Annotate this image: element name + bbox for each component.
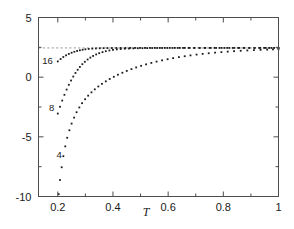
curve-label-8: 8 — [49, 102, 54, 113]
x-tick-label: 0.8 — [216, 201, 231, 213]
y-tick-label: 5 — [25, 12, 31, 24]
curve-label-16: 16 — [42, 55, 53, 66]
x-tick-label: 1 — [275, 201, 281, 213]
curve-label-4: 4 — [57, 149, 62, 160]
y-tick-label: -5 — [22, 131, 32, 143]
chart-figure: 0.20.40.60.81 50-5-10 1684 T — [0, 0, 294, 229]
chart-background — [0, 0, 294, 229]
x-tick-label: 0.2 — [50, 201, 65, 213]
x-tick-label: 0.4 — [105, 201, 120, 213]
y-tick-label: 0 — [25, 71, 31, 83]
y-tick-label: -10 — [16, 191, 32, 203]
x-tick-label: 0.6 — [161, 201, 176, 213]
scatter-plot: 0.20.40.60.81 50-5-10 1684 T — [0, 0, 294, 229]
